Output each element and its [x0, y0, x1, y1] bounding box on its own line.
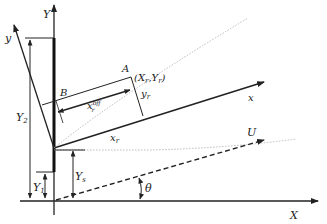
Ys-label: Ys [75, 170, 86, 184]
A-coordinates: (Xr,Yr) [134, 72, 166, 85]
y-axis-label: y [4, 32, 12, 45]
A-label: A [121, 63, 129, 74]
y-r-label: yr [140, 88, 151, 101]
X-axis-label: X [289, 209, 299, 222]
U-label: U [247, 126, 257, 139]
x-axis-label: x [248, 92, 254, 103]
U-vector [56, 140, 264, 200]
y-local-axis [14, 25, 54, 148]
x-local-axis [54, 82, 264, 148]
theta-label: θ [145, 182, 152, 195]
Y2-label: Y2 [16, 111, 28, 125]
coordinate-diagram: Y X y x U A (Xr,Yr) B xoffr yr xr Y2 Y1 … [0, 0, 327, 224]
Y1-label: Y1 [33, 181, 45, 195]
B-label: B [59, 87, 67, 98]
x-r-label: xr [110, 132, 120, 145]
x-off-label: xoffr [87, 99, 102, 113]
Y-axis-label: Y [43, 8, 52, 21]
